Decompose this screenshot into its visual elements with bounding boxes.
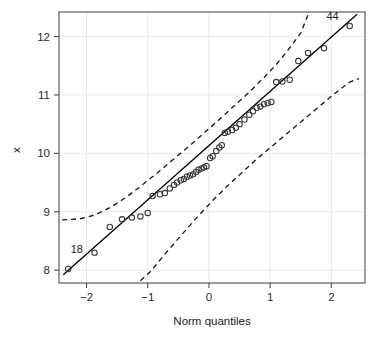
plot-frame: [59, 12, 365, 283]
data-point: [269, 99, 274, 104]
data-point: [237, 121, 242, 126]
point-label-18: 18: [71, 243, 83, 255]
data-point: [321, 46, 326, 51]
y-tick-label-2: 10: [37, 147, 50, 159]
x-tick-label-4: 2: [328, 291, 334, 303]
y-tick-label-1: 9: [44, 206, 50, 218]
data-point: [242, 117, 247, 122]
point-label-44: 44: [326, 10, 338, 22]
x-tick-label-0: −2: [80, 291, 93, 303]
data-point: [162, 190, 167, 195]
data-point: [287, 77, 292, 82]
data-point: [138, 214, 143, 219]
upper-confidence-band: [62, 13, 309, 220]
qq-plot-figure: 89101112−2−1012 1844 Norm quantiles x: [0, 0, 381, 339]
x-tick-label-3: 1: [267, 291, 273, 303]
gridlines: [59, 12, 365, 283]
y-tick-label-3: 11: [38, 89, 50, 101]
data-point: [296, 58, 301, 63]
data-point: [119, 217, 124, 222]
x-tick-label-2: 0: [206, 291, 212, 303]
data-point: [274, 79, 279, 84]
data-point: [347, 23, 352, 28]
y-tick-label-0: 8: [44, 264, 50, 276]
y-axis-title: x: [10, 147, 22, 153]
data-point: [92, 250, 97, 255]
data-point: [305, 50, 310, 55]
data-point: [254, 105, 259, 110]
plot-border: [59, 12, 365, 283]
reference-line: [63, 14, 357, 274]
data-point: [265, 100, 270, 105]
y-tick-label-4: 12: [37, 31, 50, 43]
data-point: [129, 215, 134, 220]
confidence-envelope: [62, 13, 359, 280]
qq-reference-line: [63, 14, 357, 274]
data-point: [107, 224, 112, 229]
x-tick-label-1: −1: [141, 291, 154, 303]
x-axis-title: Norm quantiles: [173, 315, 251, 327]
qq-plot-canvas: 89101112−2−1012 1844 Norm quantiles x: [0, 0, 381, 339]
